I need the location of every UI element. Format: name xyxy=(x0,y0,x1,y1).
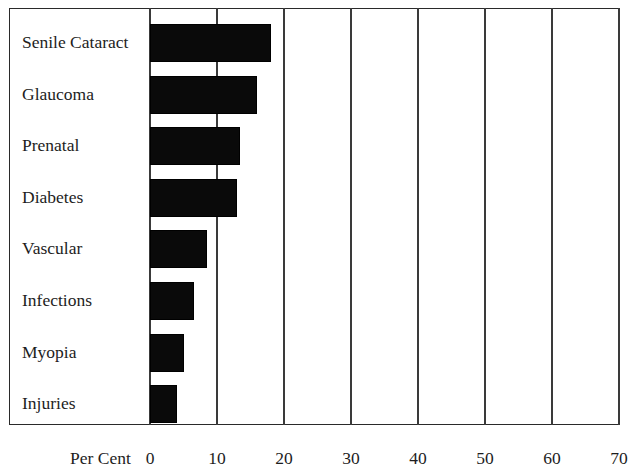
bar xyxy=(150,76,257,114)
bar xyxy=(150,230,207,268)
category-label: Diabetes xyxy=(22,189,146,207)
x-tick-label: 30 xyxy=(331,450,371,468)
category-label: Injuries xyxy=(22,395,146,413)
x-axis-title: Per Cent xyxy=(70,450,131,468)
category-label: Glaucoma xyxy=(22,86,146,104)
bar xyxy=(150,127,240,165)
bar xyxy=(150,24,271,62)
x-tick-label: 70 xyxy=(599,450,635,468)
category-label: Vascular xyxy=(22,240,146,258)
category-label: Infections xyxy=(22,292,146,310)
category-label: Prenatal xyxy=(22,137,146,155)
bar xyxy=(150,282,194,320)
x-tick-label: 60 xyxy=(532,450,572,468)
x-tick-label: 10 xyxy=(197,450,237,468)
bar xyxy=(150,385,177,423)
x-tick-label: 0 xyxy=(130,450,170,468)
x-tick-label: 40 xyxy=(398,450,438,468)
x-tick-label: 20 xyxy=(264,450,304,468)
category-label: Myopia xyxy=(22,344,146,362)
x-tick-label: 50 xyxy=(465,450,505,468)
category-label: Senile Cataract xyxy=(22,34,146,52)
bar xyxy=(150,179,237,217)
bar xyxy=(150,334,184,372)
bar-chart: Senile CataractGlaucomaPrenatalDiabetesV… xyxy=(0,0,635,476)
